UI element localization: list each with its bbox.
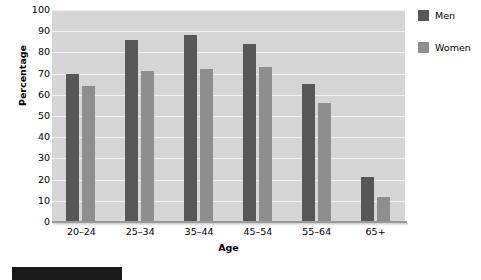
bar-group	[111, 10, 170, 222]
legend-label: Men	[435, 10, 455, 21]
y-axis-tick-labels: 1009080706050403020100	[16, 10, 50, 222]
bar-chart: Percentage 1009080706050403020100 20–242…	[0, 0, 481, 280]
y-axis-tick: 60	[16, 90, 50, 100]
y-axis-tick: 100	[16, 5, 50, 15]
bar-group	[346, 10, 405, 222]
legend-item-women[interactable]: Women	[418, 42, 480, 53]
x-axis-tick: 25–34	[126, 226, 155, 237]
y-axis-tick: 50	[16, 111, 50, 121]
x-axis-tick: 35–44	[185, 226, 214, 237]
y-axis-tick: 0	[16, 217, 50, 227]
chart-legend: MenWomen	[418, 10, 480, 74]
plot-area	[52, 10, 405, 222]
y-axis-tick: 80	[16, 48, 50, 58]
bar-women-65+	[377, 197, 390, 222]
y-axis-tick: 40	[16, 132, 50, 142]
bar-women-35–44	[200, 69, 213, 222]
bar-group	[287, 10, 346, 222]
bar-group	[52, 10, 111, 222]
bar-group	[229, 10, 288, 222]
x-axis-tick-labels: 20–2425–3435–4445–5455–6465+	[52, 226, 405, 242]
bar-men-55–64	[302, 84, 315, 222]
bar-men-45–54	[243, 44, 256, 222]
caption-number: 12.3	[90, 268, 122, 280]
caption-strip: 12.3	[12, 267, 122, 280]
bar-men-20–24	[66, 74, 79, 222]
y-axis-tick: 30	[16, 154, 50, 164]
bar-groups	[52, 10, 405, 222]
caption-ghost-text	[60, 252, 380, 264]
bar-men-35–44	[184, 35, 197, 222]
y-axis-tick: 70	[16, 69, 50, 79]
legend-swatch-icon	[418, 42, 429, 53]
bar-women-25–34	[141, 71, 154, 222]
bar-women-20–24	[82, 86, 95, 222]
y-axis-tick: 10	[16, 196, 50, 206]
bar-group	[170, 10, 229, 222]
bar-men-65+	[361, 177, 374, 222]
x-axis-tick: 20–24	[67, 226, 96, 237]
x-axis-tick: 55–64	[302, 226, 331, 237]
bar-men-25–34	[125, 40, 138, 222]
y-axis-tick: 20	[16, 175, 50, 185]
bar-women-45–54	[259, 67, 272, 222]
x-axis-tick: 45–54	[243, 226, 272, 237]
legend-label: Women	[435, 42, 471, 53]
bar-women-55–64	[318, 103, 331, 222]
legend-swatch-icon	[418, 10, 429, 21]
x-axis-tick: 65+	[366, 226, 386, 237]
y-axis-tick: 90	[16, 26, 50, 36]
legend-item-men[interactable]: Men	[418, 10, 480, 21]
